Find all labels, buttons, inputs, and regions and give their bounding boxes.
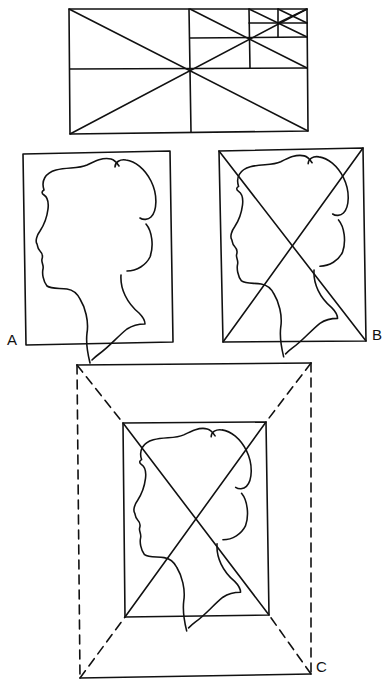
panel-b-diagonal-2 [223,148,363,342]
panel-c-connector-tl [77,365,123,423]
panel-c-connector-bl [80,617,125,678]
panel-label-b: B [372,326,382,343]
panel-c: C [77,363,327,678]
portrait-silhouette-b [231,155,348,356]
panel-c-outer-left [77,365,80,678]
golden-rectangle-figure [69,9,308,134]
panel-c-outer-bottom [80,674,311,678]
panel-a: A [7,151,173,363]
portrait-silhouette-a [36,158,156,363]
panel-c-connector-tr [266,363,311,422]
panel-c-diagonal-2 [125,422,266,617]
panel-label-a: A [7,331,17,348]
panel-c-outer-top [77,363,311,365]
horizontal-midline [70,68,307,69]
portrait-silhouette-c [134,428,251,630]
diagram-canvas: A B C [0,0,390,689]
panel-c-connector-br [269,615,311,674]
panel-label-c: C [316,658,327,675]
panel-b: B [219,148,382,357]
